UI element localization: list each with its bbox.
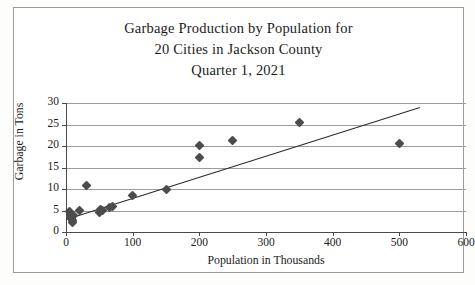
- data-point: [81, 180, 91, 190]
- data-point: [194, 140, 204, 150]
- trend-line: [66, 107, 420, 220]
- x-axis-title: Population in Thousands: [66, 253, 466, 268]
- plot-area: 051015202530 0100200300400500600 Populat…: [0, 0, 475, 285]
- data-point: [394, 139, 404, 149]
- series-layer: [0, 0, 475, 285]
- chart-page: Garbage Production by Population for 20 …: [0, 0, 475, 285]
- y-axis-title: Garbage in Tons: [12, 92, 27, 192]
- data-point: [194, 153, 204, 163]
- data-point: [294, 118, 304, 128]
- data-point: [228, 135, 238, 145]
